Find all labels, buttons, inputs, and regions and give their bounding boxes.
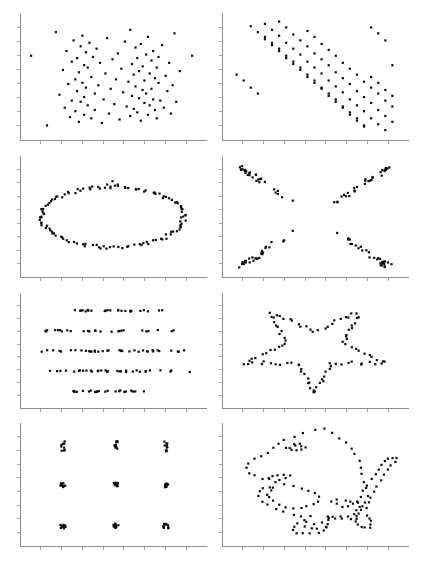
data-point xyxy=(271,475,273,477)
data-point xyxy=(364,183,366,185)
data-point xyxy=(91,371,93,373)
data-point xyxy=(391,95,393,97)
data-point xyxy=(131,63,133,65)
data-point xyxy=(156,66,158,68)
plot-canvas xyxy=(14,153,210,285)
data-point xyxy=(336,201,338,203)
data-point xyxy=(366,485,368,487)
data-point xyxy=(355,509,357,511)
data-point xyxy=(391,457,393,459)
data-point xyxy=(264,23,266,25)
data-point xyxy=(94,109,96,111)
data-point xyxy=(365,487,367,489)
data-point xyxy=(163,441,165,443)
data-point xyxy=(127,245,129,247)
data-point xyxy=(300,448,302,450)
data-point xyxy=(353,453,355,455)
data-point xyxy=(121,350,123,352)
data-point xyxy=(64,440,66,442)
data-point xyxy=(99,247,101,249)
data-point xyxy=(278,479,280,481)
data-point xyxy=(347,505,349,507)
data-point xyxy=(244,172,246,174)
data-point xyxy=(274,481,276,483)
data-point xyxy=(364,178,366,180)
data-point xyxy=(305,325,307,327)
data-point xyxy=(320,58,322,60)
data-point xyxy=(369,527,371,529)
data-point xyxy=(362,490,364,492)
data-point xyxy=(82,243,84,245)
data-point xyxy=(349,111,351,113)
data-point xyxy=(379,258,381,260)
data-point xyxy=(342,91,344,93)
data-point xyxy=(307,490,309,492)
data-point xyxy=(147,114,149,116)
data-point xyxy=(165,238,167,240)
data-point xyxy=(120,330,122,332)
data-point xyxy=(320,72,322,74)
data-point xyxy=(147,310,149,312)
data-point xyxy=(382,360,384,362)
data-point xyxy=(92,244,94,246)
data-point xyxy=(279,315,281,317)
data-point xyxy=(356,120,358,122)
data-point xyxy=(104,72,106,74)
data-point xyxy=(46,349,48,351)
data-point xyxy=(372,176,374,178)
data-point xyxy=(122,91,124,93)
data-point xyxy=(251,256,253,258)
data-point xyxy=(90,310,92,312)
data-point xyxy=(377,92,379,94)
data-point-group xyxy=(59,440,169,529)
data-point xyxy=(138,70,140,72)
data-point xyxy=(313,36,315,38)
data-point xyxy=(370,102,372,104)
data-point xyxy=(118,349,120,351)
plot-canvas xyxy=(216,420,412,554)
data-point xyxy=(174,201,176,203)
data-point xyxy=(152,239,154,241)
data-point xyxy=(97,186,99,188)
data-point xyxy=(270,362,272,364)
data-point xyxy=(251,358,253,360)
data-point xyxy=(248,472,250,474)
data-point xyxy=(248,257,250,259)
data-point xyxy=(278,333,280,335)
data-point xyxy=(283,439,285,441)
data-point xyxy=(360,509,362,511)
data-point xyxy=(355,348,357,350)
data-point xyxy=(79,310,81,312)
data-point xyxy=(155,239,157,241)
data-point xyxy=(55,31,57,33)
data-point xyxy=(125,371,127,373)
data-point xyxy=(353,513,355,515)
data-point xyxy=(158,193,160,195)
data-point xyxy=(389,464,391,466)
data-point xyxy=(358,316,360,318)
data-point xyxy=(243,79,245,81)
data-point xyxy=(124,187,126,189)
data-point xyxy=(169,370,171,372)
data-point xyxy=(152,50,154,52)
data-point xyxy=(357,247,359,249)
data-point xyxy=(283,483,285,485)
data-point xyxy=(73,370,75,372)
data-point xyxy=(314,492,316,494)
data-point xyxy=(90,117,92,119)
data-point xyxy=(354,322,356,324)
data-point xyxy=(292,48,294,50)
data-point xyxy=(40,208,42,210)
data-point xyxy=(385,168,387,170)
data-point xyxy=(355,515,357,517)
data-point xyxy=(273,321,275,323)
data-point xyxy=(178,229,180,231)
data-point xyxy=(295,449,297,451)
data-point xyxy=(264,36,266,38)
data-point xyxy=(292,529,294,531)
data-point xyxy=(117,52,119,54)
data-point xyxy=(55,196,57,198)
data-point xyxy=(345,500,347,502)
data-point xyxy=(138,188,140,190)
data-point xyxy=(253,474,255,476)
